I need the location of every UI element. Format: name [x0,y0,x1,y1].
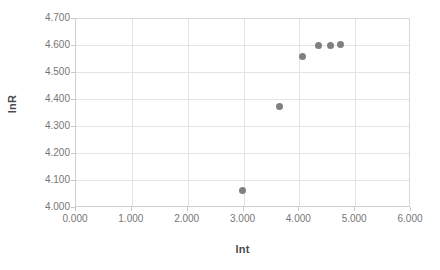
x-axis-tick-label: 4.000 [268,214,328,224]
x-axis-tick-labels: 0.0001.0002.0003.0004.0005.0006.000 [0,0,440,270]
x-axis-tick-label: 1.000 [101,214,161,224]
scatter-chart: lnR 4.0004.1004.2004.3004.4004.5004.6004… [0,0,440,270]
x-axis-title: lnt [75,243,410,255]
x-axis-tick-label: 6.000 [380,214,440,224]
x-axis-tick-label: 5.000 [324,214,384,224]
x-axis-tick-label: 2.000 [157,214,217,224]
x-axis-tick-label: 0.000 [45,214,105,224]
x-axis-tick-label: 3.000 [213,214,273,224]
